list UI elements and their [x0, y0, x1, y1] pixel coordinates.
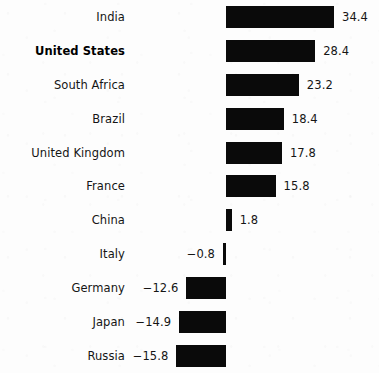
- category-label: Russia: [87, 349, 125, 363]
- category-label: France: [86, 179, 125, 193]
- bar: [226, 108, 284, 130]
- category-label: Brazil: [92, 112, 125, 126]
- bar: [186, 277, 226, 299]
- category-label: Italy: [100, 247, 125, 261]
- category-label: United Kingdom: [31, 146, 125, 160]
- value-label: 34.4: [342, 10, 368, 24]
- value-label: −14.9: [135, 315, 171, 329]
- bar-row: China1.8: [0, 203, 379, 237]
- bar-row: Brazil18.4: [0, 102, 379, 136]
- value-label: −12.6: [143, 281, 179, 295]
- bar: [223, 243, 226, 265]
- category-label: South Africa: [54, 78, 125, 92]
- category-label: Germany: [71, 281, 125, 295]
- value-label: 23.2: [307, 78, 333, 92]
- bar-row: United Kingdom17.8: [0, 136, 379, 170]
- value-label: −15.8: [133, 349, 169, 363]
- bar-row: Japan−14.9: [0, 305, 379, 339]
- category-label: United States: [35, 44, 125, 58]
- bar-row: United States28.4: [0, 34, 379, 68]
- bar-chart: India34.4United States28.4South Africa23…: [0, 0, 379, 373]
- bar: [176, 345, 226, 367]
- value-label: 15.8: [284, 179, 310, 193]
- bar: [226, 175, 276, 197]
- value-label: −0.8: [187, 247, 215, 261]
- bar: [226, 40, 315, 62]
- bar: [226, 209, 232, 231]
- value-label: 17.8: [290, 146, 316, 160]
- bar: [226, 6, 334, 28]
- category-label: Japan: [92, 315, 125, 329]
- bar-row: India34.4: [0, 0, 379, 34]
- bar: [226, 142, 282, 164]
- category-label: India: [96, 10, 125, 24]
- bar-row: Germany−12.6: [0, 271, 379, 305]
- category-label: China: [92, 213, 125, 227]
- value-label: 1.8: [240, 213, 259, 227]
- bar-row: Russia−15.8: [0, 339, 379, 373]
- bar-row: South Africa23.2: [0, 68, 379, 102]
- value-label: 28.4: [323, 44, 349, 58]
- bar: [226, 74, 299, 96]
- bar-row: Italy−0.8: [0, 237, 379, 271]
- value-label: 18.4: [292, 112, 318, 126]
- bar: [179, 311, 226, 333]
- bar-row: France15.8: [0, 170, 379, 204]
